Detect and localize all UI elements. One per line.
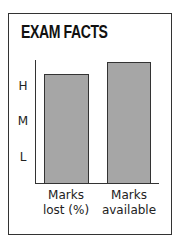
x-label-marks-available: Marks available xyxy=(99,188,159,218)
bar-marks-lost xyxy=(44,74,89,183)
x-label-line1: Marks xyxy=(99,188,159,203)
bar-marks-available xyxy=(107,62,151,183)
x-axis xyxy=(35,183,159,184)
y-tick-low: L xyxy=(17,150,29,164)
y-tick-medium: M xyxy=(17,114,29,128)
y-axis xyxy=(35,60,36,184)
x-label-line1: Marks xyxy=(36,188,96,203)
x-label-line2: lost (%) xyxy=(36,203,96,218)
x-label-marks-lost: Marks lost (%) xyxy=(36,188,96,218)
chart-title: EXAM FACTS xyxy=(21,22,108,43)
x-label-line2: available xyxy=(99,203,159,218)
y-tick-high: H xyxy=(17,79,29,93)
